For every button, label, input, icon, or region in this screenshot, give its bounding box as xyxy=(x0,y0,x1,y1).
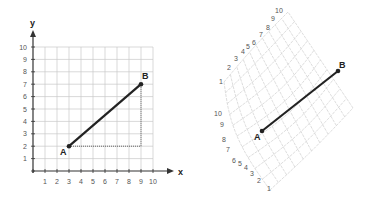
upper-arc-label: 3 xyxy=(234,55,238,62)
lower-arc-label: 8 xyxy=(222,136,226,143)
lower-arc-label: 3 xyxy=(250,170,254,177)
y-tick-label: 3 xyxy=(23,130,27,137)
warped-point-a-label: A xyxy=(254,132,261,142)
y-tick-label: 4 xyxy=(23,118,27,125)
upper-arc-label: 7 xyxy=(259,31,263,38)
point-a-marker xyxy=(67,144,72,149)
y-tick-label: 1 xyxy=(23,155,27,162)
upper-arc-label: 10 xyxy=(275,7,283,14)
point-b-marker xyxy=(139,82,144,87)
x-axis-label: x xyxy=(178,167,183,177)
x-tick-label: 2 xyxy=(55,178,59,185)
warped-grid-line xyxy=(282,18,345,116)
lower-arc-label: 1 xyxy=(267,185,271,192)
upper-arc-label: 2 xyxy=(227,64,231,71)
cartesian-plane: 1234567891012345678910xyAB xyxy=(19,18,183,185)
x-tick-label: 3 xyxy=(67,178,71,185)
upper-arc-label: 1 xyxy=(219,78,223,85)
point-b-label: B xyxy=(142,71,149,81)
upper-arc-label: 8 xyxy=(266,24,270,31)
x-tick-label: 9 xyxy=(139,178,143,185)
upper-arc-label: 5 xyxy=(246,43,250,50)
warped-point-b-label: B xyxy=(339,60,346,70)
lower-arc-label: 9 xyxy=(220,121,224,128)
upper-arc-label: 9 xyxy=(271,15,275,22)
y-tick-label: 5 xyxy=(23,106,27,113)
y-tick-label: 6 xyxy=(23,93,27,100)
point-a-label: A xyxy=(60,147,67,157)
x-tick-label: 7 xyxy=(115,178,119,185)
x-axis-arrow-icon xyxy=(167,168,174,174)
x-tick-label: 5 xyxy=(91,178,95,185)
lower-arc-label: 7 xyxy=(226,146,230,153)
warped-plane: 1234567891010987654321AB xyxy=(214,7,353,192)
y-tick-label: 7 xyxy=(23,81,27,88)
y-axis-arrow-icon xyxy=(30,30,36,37)
diagram-canvas: 1234567891012345678910xyAB 1234567891010… xyxy=(0,0,383,200)
lower-arc-label: 4 xyxy=(244,164,248,171)
warped-grid-line xyxy=(275,25,336,126)
lower-arc-label: 2 xyxy=(257,177,261,184)
upper-arc-label: 6 xyxy=(252,39,256,46)
y-tick-label: 8 xyxy=(23,68,27,75)
lower-arc-label: 10 xyxy=(214,110,222,117)
x-tick-label: 8 xyxy=(127,178,131,185)
x-tick-label: 4 xyxy=(79,178,83,185)
y-tick-label: 10 xyxy=(19,44,27,51)
lower-arc-label: 5 xyxy=(238,160,242,167)
lower-arc-label: 6 xyxy=(232,157,236,164)
warped-grid-line xyxy=(248,79,333,157)
upper-arc-label: 4 xyxy=(241,48,245,55)
x-tick-label: 6 xyxy=(103,178,107,185)
warped-segment-ab xyxy=(262,71,338,131)
warped-grid-line xyxy=(255,89,340,169)
y-axis-label: y xyxy=(30,18,35,28)
x-tick-label: 1 xyxy=(43,178,47,185)
y-tick-label: 2 xyxy=(23,143,27,150)
x-tick-label: 10 xyxy=(149,178,157,185)
y-tick-label: 9 xyxy=(23,56,27,63)
